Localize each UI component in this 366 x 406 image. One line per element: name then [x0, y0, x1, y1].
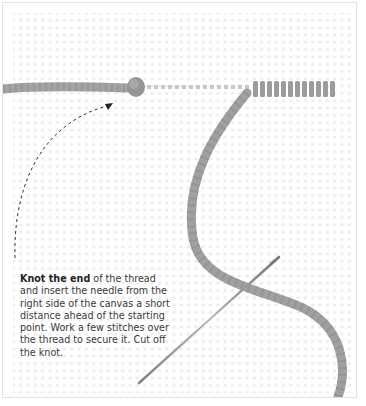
illustration-panel: Knot the end of the thread and insert th…	[2, 2, 357, 398]
caption-bold: Knot the end	[20, 273, 90, 284]
caption-text: of the thread and insert the needle from…	[20, 273, 170, 358]
caption: Knot the end of the thread and insert th…	[20, 273, 170, 359]
canvas-row-holes	[147, 85, 249, 89]
